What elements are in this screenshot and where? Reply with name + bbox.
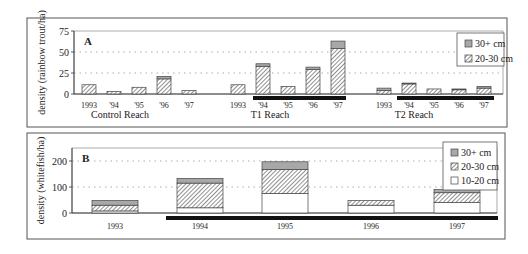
bar-segment bbox=[402, 83, 416, 84]
bar-segment bbox=[427, 89, 441, 94]
bar-segment bbox=[306, 70, 320, 94]
legend-label: 30+ cm bbox=[475, 38, 506, 49]
x-tick-label: '97 bbox=[184, 101, 193, 110]
bar-segment bbox=[182, 91, 196, 94]
treatment-period-bar bbox=[253, 96, 346, 100]
bar-segment bbox=[331, 49, 345, 94]
bar-segment bbox=[402, 84, 416, 94]
x-tick-label: 1995 bbox=[277, 222, 293, 231]
bar-segment bbox=[107, 91, 121, 94]
group-label: T2 Reach bbox=[395, 109, 434, 120]
bar-segment bbox=[452, 89, 466, 90]
x-tick-label: 1993 bbox=[376, 101, 392, 110]
chart-figure: 0255075density (rainbow trout/ha)A1993'9… bbox=[0, 0, 528, 254]
x-tick-label: 1993 bbox=[230, 101, 246, 110]
x-tick-label: '96 bbox=[308, 101, 317, 110]
bar-segment bbox=[281, 86, 295, 94]
bar-segment bbox=[434, 203, 480, 213]
y-tick-label: 75 bbox=[59, 26, 69, 37]
panel-label: B bbox=[82, 152, 90, 164]
bar-segment bbox=[262, 170, 308, 194]
y-axis-label: density (rainbow trout/ha) bbox=[36, 10, 48, 114]
y-tick-label: 25 bbox=[59, 68, 69, 79]
bar-segment bbox=[82, 85, 96, 94]
y-tick-label: 50 bbox=[59, 47, 69, 58]
plot-area bbox=[74, 31, 503, 94]
group-label: T1 Reach bbox=[251, 109, 290, 120]
bar-segment bbox=[256, 64, 270, 67]
y-tick-label: 0 bbox=[64, 89, 69, 100]
legend-swatch bbox=[451, 163, 458, 170]
treatment-period-bar bbox=[397, 96, 494, 100]
legend-label: 20-30 cm bbox=[461, 161, 499, 172]
x-tick-label: '97 bbox=[333, 101, 342, 110]
x-tick-label: '96 bbox=[454, 101, 463, 110]
bar-segment bbox=[348, 205, 394, 213]
treatment-period-bar bbox=[166, 216, 498, 220]
panel-a: 0255075density (rainbow trout/ha)A1993'9… bbox=[27, 10, 513, 127]
x-tick-label: '97 bbox=[479, 101, 488, 110]
legend: 30+ cm20-30 cm bbox=[457, 33, 513, 66]
bar-segment bbox=[177, 178, 223, 183]
bar-segment bbox=[331, 41, 345, 49]
bar-segment bbox=[92, 201, 138, 206]
bar-segment bbox=[262, 162, 308, 170]
bar-segment bbox=[348, 201, 394, 206]
y-tick-label: 200 bbox=[52, 156, 67, 167]
bar-segment bbox=[306, 67, 320, 70]
bar-segment bbox=[231, 85, 245, 94]
bar-segment bbox=[177, 208, 223, 213]
y-axis-label: density (whitefish/ha) bbox=[35, 137, 47, 224]
legend-swatch bbox=[465, 40, 472, 47]
bar-segment bbox=[132, 87, 146, 94]
bar-segment bbox=[157, 76, 171, 79]
x-tick-label: 1996 bbox=[363, 222, 379, 231]
bar-segment bbox=[177, 183, 223, 208]
legend-label: 20-30 cm bbox=[475, 53, 513, 64]
bar-segment bbox=[377, 91, 391, 94]
legend-swatch bbox=[465, 55, 472, 62]
legend-label: 30+ cm bbox=[461, 147, 492, 158]
bar-segment bbox=[92, 205, 138, 211]
x-tick-label: '96 bbox=[159, 101, 168, 110]
x-tick-label: 1993 bbox=[107, 222, 123, 231]
bar-segment bbox=[434, 193, 480, 203]
bar-segment bbox=[262, 194, 308, 214]
panel-b: 0100200density (whitefish/ha)B1993199419… bbox=[27, 133, 505, 239]
bar-segment bbox=[477, 88, 491, 94]
legend-swatch bbox=[451, 149, 458, 156]
panel-label: A bbox=[84, 35, 92, 47]
x-tick-label: 1997 bbox=[449, 222, 465, 231]
y-tick-label: 100 bbox=[52, 182, 67, 193]
group-label: Control Reach bbox=[91, 109, 149, 120]
legend-swatch bbox=[451, 177, 458, 184]
y-tick-label: 0 bbox=[62, 208, 67, 219]
bar-segment bbox=[157, 79, 171, 94]
bar-segment bbox=[377, 88, 391, 91]
legend: 30+ cm20-30 cm10-20 cm bbox=[443, 142, 499, 190]
legend-label: 10-20 cm bbox=[461, 175, 499, 186]
bar-segment bbox=[477, 86, 491, 88]
bar-segment bbox=[256, 66, 270, 94]
bar-segment bbox=[452, 90, 466, 94]
x-tick-label: 1994 bbox=[192, 222, 208, 231]
